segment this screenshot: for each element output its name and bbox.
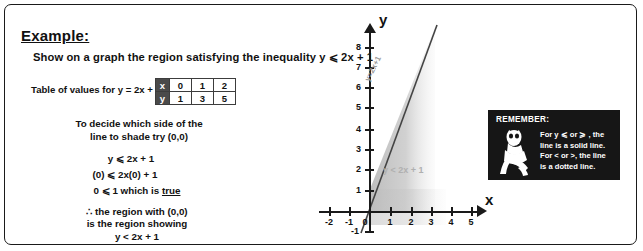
y-tick-4	[365, 129, 374, 131]
y-tick-label-neg1: -1	[345, 226, 359, 236]
table-row: x 0 1 2	[156, 79, 236, 92]
conclusion-line-1: ∴ the region with (0,0)	[4, 206, 293, 217]
row-header-y: y	[156, 92, 170, 105]
y-tick-1	[365, 190, 374, 192]
y-tick-label-7: 7	[347, 62, 361, 72]
y-tick-2	[365, 169, 374, 171]
lesson-panel: Example: Show on a graph the region sati…	[4, 4, 637, 245]
y-tick-3	[365, 149, 374, 151]
x-tick-neg2	[329, 207, 331, 216]
x-tick-label-5: 5	[464, 217, 478, 227]
y-axis-label: y	[379, 11, 387, 28]
y-tick-label-5: 5	[347, 102, 361, 112]
y-tick-5	[365, 107, 374, 109]
coordinate-graph: y x 8 7 6 5 4 3 2 1 -1 -2 -1 0 1 2 3	[317, 5, 502, 245]
y-tick-label-8: 8	[347, 42, 361, 52]
x-axis	[319, 211, 479, 213]
y-tick-label-2: 2	[347, 164, 361, 174]
y-tick-label-4: 4	[347, 124, 361, 134]
conclusion-line-3: y < 2x + 1	[4, 231, 293, 242]
table-row: y 1 3 5	[156, 92, 236, 105]
cell-x-0: 0	[170, 79, 192, 92]
decide-line-1: To decide which side of the	[4, 118, 295, 129]
x-tick-4	[451, 207, 453, 216]
remember-body: For y ⩽ or ⩾ , the line is a solid line.…	[540, 130, 606, 172]
decide-line-2: line to shade try (0,0)	[4, 131, 295, 142]
cell-y-2: 5	[214, 92, 236, 105]
working-step-3: 0 ⩽ 1 which is true	[4, 185, 293, 196]
x-tick-label-3: 3	[424, 217, 438, 227]
cell-x-1: 1	[192, 79, 214, 92]
x-tick-1	[390, 207, 392, 216]
x-tick-label-4: 4	[444, 217, 458, 227]
working-step-1: y ⩽ 2x + 1	[4, 153, 287, 164]
cell-y-0: 1	[170, 92, 192, 105]
table-caption: Table of values for y = 2x + 1	[31, 84, 161, 95]
values-table: x 0 1 2 y 1 3 5	[155, 78, 236, 105]
y-tick-label-3: 3	[347, 144, 361, 154]
y-tick-6	[365, 87, 374, 89]
x-tick-neg1	[349, 207, 351, 216]
shaded-region-svg	[317, 5, 502, 245]
x-tick-2	[411, 207, 413, 216]
remember-callout: REMEMBER: For y ⩽ or ⩾ , the line is a s…	[488, 110, 620, 180]
remember-title: REMEMBER:	[496, 115, 549, 124]
x-tick-3	[431, 207, 433, 216]
y-tick-label-1: 1	[347, 185, 361, 195]
page-title: Example:	[21, 27, 89, 44]
working-step-2: (0) ⩽ 2x(0) + 1	[4, 169, 281, 180]
x-tick-5	[471, 207, 473, 216]
cell-x-2: 2	[214, 79, 236, 92]
working-step-3-text: 0 ⩽ 1 which is	[94, 185, 162, 196]
explanation-column: Example: Show on a graph the region sati…	[5, 5, 317, 244]
x-tick-label-1: 1	[383, 217, 397, 227]
conclusion-line-2: is the region showing	[4, 218, 293, 229]
region-label: y < 2x + 1	[383, 165, 424, 175]
cell-y-1: 3	[192, 92, 214, 105]
y-tick-label-6: 6	[347, 82, 361, 92]
x-tick-label-2: 2	[404, 217, 418, 227]
y-tick-neg1	[365, 231, 374, 233]
y-tick-8	[365, 47, 374, 49]
working-step-3-emphasis: true	[162, 185, 181, 196]
x-tick-label-0: 0	[358, 217, 372, 227]
row-header-x: x	[156, 79, 170, 92]
x-axis-label: x	[485, 191, 493, 208]
x-tick-label-neg1: -1	[342, 217, 356, 227]
mascot-character-icon	[494, 126, 538, 176]
x-tick-label-neg2: -2	[322, 217, 336, 227]
y-axis-arrow-icon	[364, 23, 376, 33]
